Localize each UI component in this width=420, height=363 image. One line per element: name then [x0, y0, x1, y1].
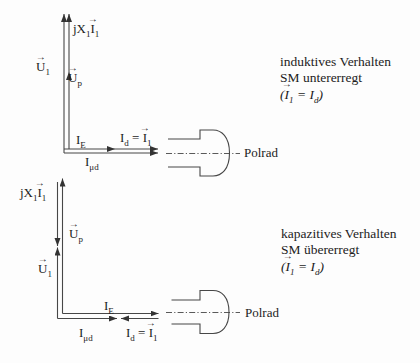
label-imud-bottom: Iμd [79, 326, 93, 340]
vector-arrow-icon: → [88, 14, 98, 24]
label-up-top: U→p [68, 71, 82, 85]
polrad-symbol [168, 130, 230, 176]
label-u1-bottom: U→1 [38, 262, 52, 276]
bottom-phasor-diagram [58, 179, 241, 334]
label-up-bottom: U→p [69, 227, 83, 241]
polrad-symbol [172, 291, 230, 334]
caption-top: induktives Verhalten SM untererregt (I→1… [280, 54, 391, 103]
vector-arrow-icon: → [68, 63, 78, 73]
phasor-diagram-figure: jX1I→1 U→1 U→p IE Id = I→1 Iμd Polrad in… [0, 0, 420, 363]
label-ie-bottom: IE [104, 299, 114, 313]
vector-arrow-icon: → [283, 251, 293, 261]
label-id-i1-top: Id = I→1 [120, 131, 152, 145]
label-jx1i1-bottom: jX1I→1 [20, 186, 46, 200]
caption-bottom-line3: (I→1 = Id) [281, 259, 324, 275]
vector-arrow-icon: → [140, 123, 150, 133]
label-imud-top: Iμd [85, 155, 99, 169]
caption-bottom-line2: SM übererregt [281, 242, 397, 258]
label-polrad-bottom: Polrad [245, 306, 279, 320]
label-polrad-top: Polrad [244, 146, 278, 160]
label-ie-top: IE [76, 133, 86, 147]
vector-arrow-icon: → [35, 178, 45, 188]
caption-top-line3: (I→1 = Id) [280, 87, 323, 103]
label-id-i1-bottom: Id = I→1 [126, 326, 158, 340]
caption-bottom-line1: kapazitives Verhalten [281, 226, 397, 242]
caption-top-line1: induktives Verhalten [280, 54, 391, 70]
vector-arrow-icon: → [282, 79, 292, 89]
vector-arrow-icon: → [146, 318, 156, 328]
caption-top-line2: SM untererregt [280, 70, 391, 86]
label-jx1i1-top: jX1I→1 [73, 22, 99, 36]
caption-bottom: kapazitives Verhalten SM übererregt (I→1… [281, 226, 397, 275]
vector-arrow-icon: → [38, 254, 48, 264]
vector-arrow-icon: → [69, 219, 79, 229]
label-u1-top: U→1 [36, 60, 50, 74]
vector-arrow-icon: → [36, 52, 46, 62]
